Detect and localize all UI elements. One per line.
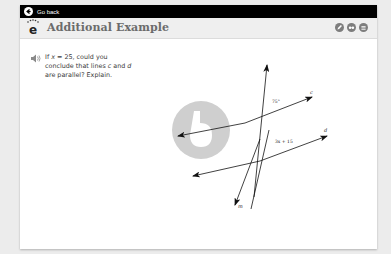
pencil-icon <box>336 24 343 31</box>
go-back-button[interactable]: Go back <box>24 7 59 16</box>
top-bar: Go back <box>20 5 377 18</box>
content-panel: If x = 25, could you conclude that lines… <box>20 39 377 249</box>
arrow-left-circle-icon <box>24 7 33 16</box>
line-d <box>260 136 327 161</box>
line-c-label: c <box>310 89 313 95</box>
angle-3x15-label: 3x + 15 <box>275 139 293 144</box>
menu-tool-button[interactable] <box>359 23 368 32</box>
header-tools <box>335 23 368 32</box>
menu-icon <box>360 24 367 31</box>
line-d-label: d <box>324 127 327 133</box>
line-m <box>251 130 269 209</box>
go-back-label: Go back <box>37 9 59 15</box>
pencil-tool-button[interactable] <box>335 23 344 32</box>
parallel-lines-figure: c d m 75° 3x + 15 <box>20 39 377 249</box>
page-header: e Additional Example <box>20 18 377 39</box>
line-m-label: m <box>238 203 243 209</box>
e-logo-icon: e <box>26 19 40 37</box>
glasses-icon <box>348 24 355 31</box>
page-title: Additional Example <box>47 21 169 34</box>
angle-75-label: 75° <box>272 99 280 104</box>
glasses-tool-button[interactable] <box>347 23 356 32</box>
svg-text:e: e <box>29 23 37 37</box>
app-frame: Go back e Additional Example <box>20 5 377 249</box>
watermark-logo-icon <box>172 101 230 159</box>
